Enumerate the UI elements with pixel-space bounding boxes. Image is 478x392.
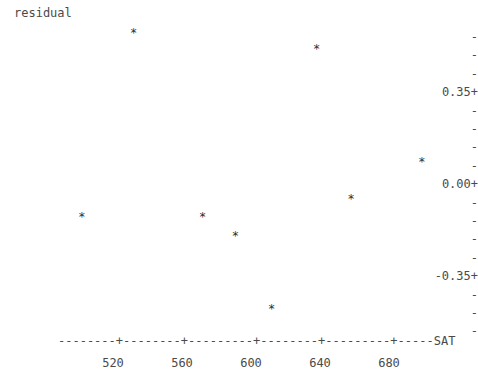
data-point: * xyxy=(198,213,207,222)
x-axis-tick-label: 560 xyxy=(171,357,193,369)
y-axis-minor-tick: - xyxy=(424,49,478,61)
x-axis-tick-label: 680 xyxy=(378,357,400,369)
data-point: * xyxy=(347,195,356,204)
y-axis-title: residual xyxy=(14,6,72,20)
x-axis-tick-label: 520 xyxy=(102,357,124,369)
y-axis-tick-label: 0.00+ xyxy=(424,178,478,190)
y-axis-minor-tick: - xyxy=(424,141,478,153)
y-axis-minor-tick: - xyxy=(424,123,478,135)
data-point: * xyxy=(231,232,240,241)
y-axis-minor-tick: - xyxy=(424,252,478,264)
y-axis-minor-tick: - xyxy=(424,289,478,301)
data-point: * xyxy=(77,213,86,222)
y-axis-minor-tick: - xyxy=(424,31,478,43)
y-axis-minor-tick: - xyxy=(424,105,478,117)
y-axis-minor-tick: - xyxy=(424,197,478,209)
y-axis-minor-tick: - xyxy=(424,160,478,172)
data-point: * xyxy=(267,305,276,314)
y-axis-tick-label: -0.35+ xyxy=(424,270,478,282)
data-point: * xyxy=(312,45,321,54)
y-axis-tick-label: 0.35+ xyxy=(424,86,478,98)
data-point: * xyxy=(417,158,426,167)
data-point: * xyxy=(129,29,138,38)
y-axis-minor-tick: - xyxy=(424,233,478,245)
y-axis-minor-tick: - xyxy=(424,215,478,227)
y-axis-minor-tick: - xyxy=(424,307,478,319)
residual-vs-sat-character-plot: residual ---0.35+----0.00+-----0.35+--- … xyxy=(0,0,478,392)
y-axis-minor-tick: - xyxy=(424,68,478,80)
x-axis-line: --------+--------+---------+--------+---… xyxy=(58,335,455,347)
x-axis-tick-label: 640 xyxy=(309,357,331,369)
x-axis-tick-label: 600 xyxy=(240,357,262,369)
